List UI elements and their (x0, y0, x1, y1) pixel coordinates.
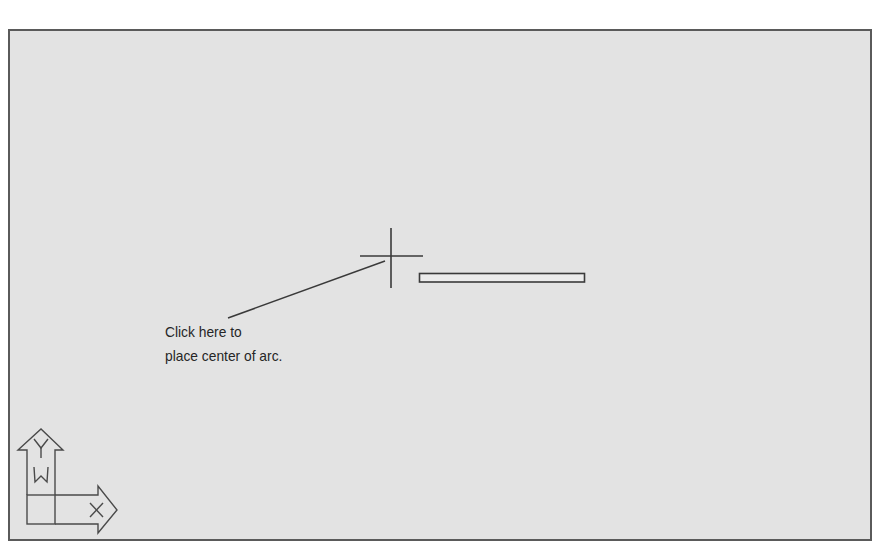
callout-line-2: place center of arc. (165, 344, 282, 368)
callout-text: Click here to place center of arc. (165, 320, 282, 368)
callout-line-1: Click here to (165, 320, 282, 344)
arc-preview-rectangle (420, 274, 585, 283)
callout-leader-line (228, 261, 385, 318)
ucs-icon (18, 429, 117, 533)
crosshair-cursor-icon (360, 228, 423, 288)
drawing-canvas (0, 0, 884, 553)
